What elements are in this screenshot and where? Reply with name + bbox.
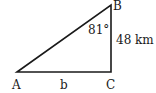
vertex-label-c: C	[106, 78, 115, 92]
triangle-diagram: B 81° 48 km A b C	[0, 0, 156, 93]
side-ac-label: b	[60, 78, 68, 92]
vertex-label-a: A	[11, 78, 21, 92]
triangle-abc	[17, 5, 111, 72]
vertex-label-b: B	[113, 0, 122, 13]
side-bc-label: 48 km	[116, 33, 154, 47]
angle-b-label: 81°	[88, 23, 109, 37]
